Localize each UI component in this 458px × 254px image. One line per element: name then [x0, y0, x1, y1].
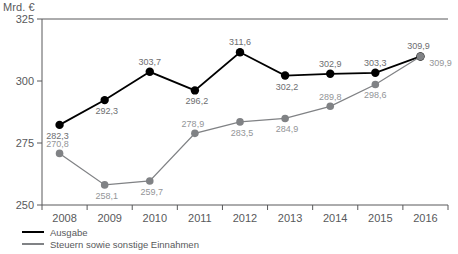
y-axis-tick-label: 300: [16, 75, 34, 87]
x-axis-tick-label: 2013: [278, 212, 302, 224]
series-value-labels: 282,3292,3303,7296,2311,6302,2302,9303,3…: [46, 37, 451, 201]
legend-item-label: Steuern sowie sonstige Einnahmen: [50, 239, 199, 250]
x-axis-tick-label: 2015: [368, 212, 392, 224]
line-chart: Mrd. € 250275300325 20082009201020112012…: [0, 0, 458, 254]
data-point-marker: [417, 53, 425, 61]
y-axis-tick-label: 250: [16, 199, 34, 211]
series-markers: [55, 48, 424, 189]
chart-plot-area: 250275300325 200820092010201120122013201…: [0, 0, 458, 254]
data-point-marker: [371, 69, 379, 77]
data-point-value-label: 309,9: [407, 41, 430, 51]
data-point-marker: [100, 96, 108, 104]
data-point-marker: [372, 81, 380, 89]
data-point-value-label: 284,9: [276, 124, 299, 134]
y-axis-tick-labels: 250275300325: [16, 13, 34, 211]
data-point-value-label: 289,8: [319, 92, 342, 102]
chart-legend: Ausgabe Steuern sowie sonstige Einnahmen: [22, 226, 199, 250]
data-point-value-label: 278,9: [182, 119, 205, 129]
data-point-marker: [326, 102, 334, 110]
data-point-marker: [146, 68, 154, 76]
x-axis-tick-labels: 200820092010201120122013201420152016: [52, 212, 437, 224]
data-point-marker: [191, 86, 199, 94]
data-point-value-label: 302,9: [319, 59, 342, 69]
data-point-marker: [191, 130, 199, 138]
data-point-marker: [55, 121, 63, 129]
data-point-value-label: 292,3: [95, 106, 118, 116]
data-point-value-label: 303,3: [364, 58, 387, 68]
x-axis-tick-label: 2010: [143, 212, 167, 224]
legend-swatch-icon: [22, 243, 44, 245]
legend-item-steuern-sowie-sonstige-einnahmen: Steuern sowie sonstige Einnahmen: [22, 238, 199, 250]
data-point-marker: [56, 150, 64, 158]
data-point-value-label: 311,6: [229, 37, 251, 47]
x-axis-tick-label: 2016: [413, 212, 437, 224]
data-point-value-label: 258,1: [95, 191, 118, 201]
data-point-value-label: 298,6: [364, 90, 387, 100]
x-axis-tick-label: 2009: [97, 212, 121, 224]
data-point-marker: [281, 115, 289, 123]
data-point-marker: [101, 181, 109, 189]
y-axis-tick-label: 275: [16, 137, 34, 149]
data-point-value-label: 283,5: [231, 128, 254, 138]
data-point-value-label: 270,8: [46, 139, 69, 149]
data-point-marker: [281, 71, 289, 79]
y-axis-tick-label: 325: [16, 13, 34, 25]
data-point-value-label: 296,2: [186, 96, 209, 106]
data-point-value-label: 259,7: [141, 187, 164, 197]
x-axis-tick-label: 2012: [233, 212, 257, 224]
data-point-value-label: 309,9: [429, 58, 452, 68]
data-point-value-label: 302,2: [276, 82, 299, 92]
x-axis-tick-label: 2011: [188, 212, 212, 224]
x-axis-tick-label: 2008: [52, 212, 76, 224]
legend-item-label: Ausgabe: [50, 227, 88, 238]
legend-item-ausgabe: Ausgabe: [22, 226, 199, 238]
data-point-marker: [326, 70, 334, 78]
data-point-marker: [236, 118, 244, 126]
x-axis-tick-label: 2014: [323, 212, 347, 224]
data-point-marker: [236, 48, 244, 56]
data-point-marker: [146, 177, 154, 185]
data-point-value-label: 303,7: [139, 57, 162, 67]
legend-swatch-icon: [22, 231, 44, 233]
